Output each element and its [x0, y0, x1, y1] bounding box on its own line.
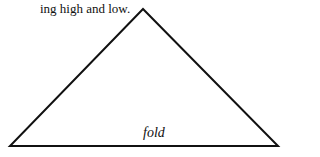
fold-label: fold: [143, 125, 165, 141]
